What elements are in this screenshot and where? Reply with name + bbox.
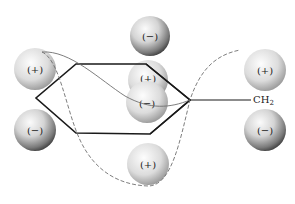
sphere-left-upper: (+) [14,48,56,90]
charge-label: (−) [257,125,273,136]
sphere-center-front: (−) [126,81,168,123]
substituent-label: CH2 [253,94,274,107]
charge-label: (+) [27,64,43,75]
charge-label: (−) [27,125,43,136]
charge-label: (−) [142,31,158,42]
charge-label: (+) [140,159,156,170]
orbital-diagram: (−) (+) (−) (+) (−) (+) (+) [0,0,295,204]
sphere-right-upper: (+) [244,49,286,91]
sphere-right-lower: (−) [244,109,286,151]
charge-label: (+) [257,65,273,76]
sphere-left-lower: (−) [14,109,56,151]
sphere-top-center: (−) [130,16,170,56]
diagram-canvas: (−) (+) (−) (+) (−) (+) (+) [0,0,295,204]
